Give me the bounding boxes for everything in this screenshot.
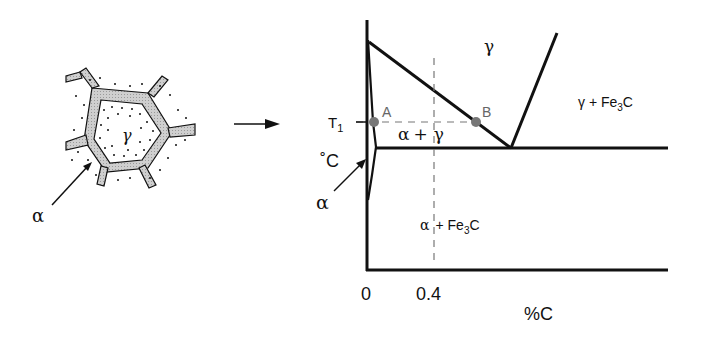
point-b [471,117,481,127]
x-tick-0: 0 [361,284,371,304]
transition-arrow [234,119,280,129]
region-alpha-fe3c: α+ Fe3C [420,217,480,236]
x-tick-0-4: 0.4 [416,284,441,304]
region-alpha-gamma: α+γ [398,124,444,144]
figure: γ α A B T1 ˚C [0,0,702,340]
point-b-label: B [482,104,491,120]
alpha-pointer-line [52,166,88,205]
region-gamma-fe3c: γ + Fe3C [578,94,633,113]
microstructure: γ α [32,68,195,226]
t1-label: T1 [328,114,343,134]
point-a [369,117,379,127]
x-axis-label: %C [524,304,553,324]
gamma-grain-label: γ [122,126,132,145]
phase-diagram: A B T1 ˚C α γ α+γ γ + Fe3C α+ Fe3C 0 0.4… [316,20,668,324]
point-a-label: A [382,104,392,120]
alpha-phase-label: α [316,191,329,213]
acm-line [511,33,557,148]
arrow-right-icon [265,119,280,129]
y-unit-label: ˚C [320,151,339,171]
region-gamma: γ [484,36,494,56]
alpha-boundary-label: α [32,205,44,226]
